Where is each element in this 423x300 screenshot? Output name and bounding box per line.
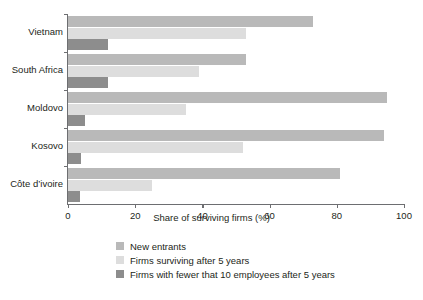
legend-item: New entrants: [116, 239, 335, 253]
legend-label: New entrants: [130, 241, 186, 252]
category-tick: [64, 128, 68, 129]
x-tick: [135, 204, 136, 208]
bar-3: [68, 191, 80, 202]
plot-area: 020406080100: [68, 14, 404, 204]
category-tick: [64, 14, 68, 15]
bar-chart: VietnamSouth AfricaMoldovoKosovoCôte d’i…: [0, 0, 423, 300]
x-axis-line: [67, 204, 404, 205]
category-label: Côte d’ivoire: [0, 178, 63, 189]
x-tick: [404, 204, 405, 208]
bar-1: [68, 168, 340, 179]
bar-3: [68, 39, 108, 50]
legend-item: Firms with fewer that 10 employees after…: [116, 267, 335, 281]
bar-1: [68, 54, 246, 65]
legend-swatch-icon: [116, 256, 124, 264]
bar-2: [68, 180, 152, 191]
bar-1: [68, 130, 384, 141]
x-tick: [337, 204, 338, 208]
x-tick: [68, 204, 69, 208]
legend-label: Firms surviving after 5 years: [130, 255, 249, 266]
bar-2: [68, 66, 199, 77]
bar-2: [68, 142, 243, 153]
bar-3: [68, 153, 81, 164]
category-label: Moldovo: [0, 102, 63, 113]
legend-swatch-icon: [116, 242, 124, 250]
x-tick: [270, 204, 271, 208]
bar-2: [68, 28, 246, 39]
category-label: South Africa: [0, 64, 63, 75]
legend-label: Firms with fewer that 10 employees after…: [130, 269, 335, 280]
legend-swatch-icon: [116, 270, 124, 278]
category-label: Vietnam: [0, 26, 63, 37]
legend-item: Firms surviving after 5 years: [116, 253, 335, 267]
chart-legend: New entrantsFirms surviving after 5 year…: [116, 239, 335, 281]
category-tick: [64, 52, 68, 53]
category-tick: [64, 166, 68, 167]
bar-3: [68, 77, 108, 88]
bar-1: [68, 92, 387, 103]
x-axis-title: Share of surviving firms (%): [0, 212, 423, 223]
bar-1: [68, 16, 313, 27]
x-tick: [202, 204, 203, 208]
category-label: Kosovo: [0, 140, 63, 151]
bar-3: [68, 115, 85, 126]
bar-2: [68, 104, 186, 115]
category-tick: [64, 90, 68, 91]
